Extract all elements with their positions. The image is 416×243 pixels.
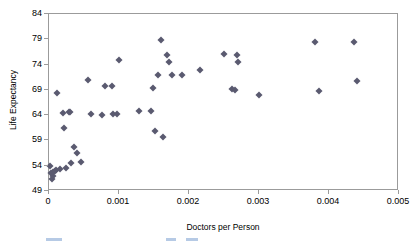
data-point [152, 128, 159, 135]
data-point [61, 125, 68, 132]
legend-strip-clipped [0, 236, 416, 243]
data-point [166, 58, 173, 65]
data-point [353, 78, 360, 85]
data-point [231, 87, 238, 94]
legend-swatch [186, 238, 198, 241]
x-tick-mark [258, 190, 259, 194]
x-tick-label: 0.001 [96, 196, 140, 206]
x-tick-label: 0.005 [376, 196, 416, 206]
y-tick-label: 59 [16, 134, 42, 144]
x-tick-mark [328, 190, 329, 194]
x-tick-mark [118, 190, 119, 194]
data-point [234, 58, 241, 65]
x-tick-label: 0.004 [306, 196, 350, 206]
y-tick-label: 64 [16, 109, 42, 119]
data-point [220, 51, 227, 58]
data-point [168, 72, 175, 79]
legend-swatch [166, 238, 176, 241]
y-tick-mark [44, 64, 48, 65]
data-point [98, 112, 105, 119]
data-point [147, 108, 154, 115]
data-point [108, 83, 115, 90]
data-point [160, 134, 167, 141]
data-point [196, 66, 203, 73]
y-tick-mark [44, 165, 48, 166]
data-point [73, 150, 80, 157]
data-point [87, 111, 94, 118]
data-point [255, 91, 262, 98]
plot-area [48, 13, 398, 190]
data-point [67, 160, 74, 167]
y-tick-mark [44, 13, 48, 14]
y-tick-label: 79 [16, 33, 42, 43]
y-tick-label: 74 [16, 59, 42, 69]
x-tick-label: 0.002 [166, 196, 210, 206]
data-point [157, 36, 164, 43]
y-tick-mark [44, 114, 48, 115]
data-point [233, 51, 240, 58]
x-tick-label: 0 [26, 196, 70, 206]
y-tick-mark [44, 139, 48, 140]
scatter-chart: Life Expectancy 4954596469747984 00.0010… [0, 0, 416, 243]
data-point [85, 76, 92, 83]
data-point [101, 83, 108, 90]
x-axis-title: Doctors per Person [48, 222, 398, 232]
x-tick-label: 0.003 [236, 196, 280, 206]
data-point [350, 38, 357, 45]
data-point [135, 108, 142, 115]
legend-swatch [46, 238, 62, 241]
data-point [311, 38, 318, 45]
data-point [115, 56, 122, 63]
data-point [149, 84, 156, 91]
x-tick-mark [188, 190, 189, 194]
data-point [62, 164, 69, 171]
y-tick-label: 49 [16, 185, 42, 195]
x-tick-mark [398, 190, 399, 194]
data-point [54, 89, 61, 96]
y-tick-label: 54 [16, 160, 42, 170]
y-tick-label: 69 [16, 84, 42, 94]
x-tick-mark [48, 190, 49, 194]
data-point [78, 158, 85, 165]
y-tick-label: 84 [16, 8, 42, 18]
data-point [178, 72, 185, 79]
data-point [154, 71, 161, 78]
y-tick-mark [44, 89, 48, 90]
data-point [315, 87, 322, 94]
y-tick-mark [44, 38, 48, 39]
